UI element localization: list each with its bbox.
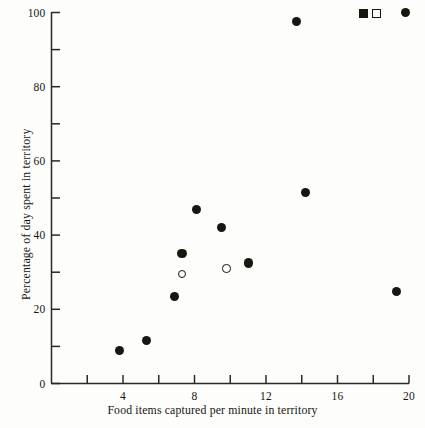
x-tick-label: 4 [120,390,126,402]
x-axis-title: Food items captured per minute in territ… [0,403,425,418]
data-point-filled-circle [115,346,124,355]
y-tick-label: 40 [34,229,46,241]
x-tick-label: 20 [403,390,415,402]
axes-svg [0,0,425,428]
y-tick-label: 20 [34,303,46,315]
y-tick-label: 80 [34,81,46,93]
y-tick-marks [52,13,61,384]
x-tick-label: 16 [332,390,344,402]
y-axis-title: Percentage of day spent in territory [19,129,34,300]
x-tick-label: 12 [260,390,272,402]
data-point-open-circle [222,264,230,272]
y-tick-label: 60 [34,155,46,167]
legend-filled-square-icon [359,9,368,18]
legend-open-square-icon [372,9,381,18]
y-tick-label: 0 [40,378,46,390]
data-point-filled-circle [192,205,201,214]
scatter-plot-figure: 020406080100 48121620 Food items capture… [0,0,425,428]
data-point-filled-circle [177,249,186,258]
x-tick-label: 8 [192,390,198,402]
data-point-filled-circle [244,258,253,267]
data-point-filled-circle [401,8,410,17]
data-point-filled-circle [392,287,401,296]
x-tick-marks [87,375,409,384]
y-tick-label: 100 [28,7,46,19]
data-point-filled-circle [301,188,310,197]
